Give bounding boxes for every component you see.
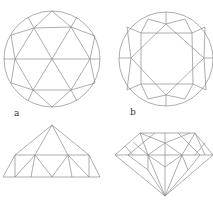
label-a: a — [14, 108, 19, 118]
gem-cuts-diagram — [0, 0, 213, 213]
rose-cut-top-view — [4, 11, 100, 107]
brilliant-cut-top-view — [119, 12, 213, 106]
rose-cut-side-view — [3, 125, 100, 177]
label-b: b — [130, 107, 136, 117]
brilliant-cut-side-view — [115, 133, 213, 196]
